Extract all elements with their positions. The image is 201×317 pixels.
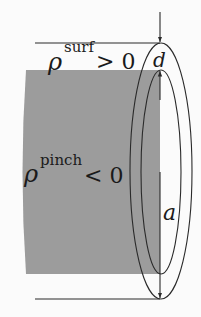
thickness-label: d [153,48,166,72]
radius-label: a [163,200,176,225]
surf-relation: > 0 [96,49,135,74]
rho-pinch-symbol: ρ [23,160,38,188]
flux-tube-diagram: ρ surf > 0 ρ pinch < 0 d a [0,0,201,317]
rho-surf-symbol: ρ [47,48,62,76]
surf-superscript: surf [64,38,96,56]
pinch-superscript: pinch [40,151,82,169]
pinch-relation: < 0 [84,163,123,188]
